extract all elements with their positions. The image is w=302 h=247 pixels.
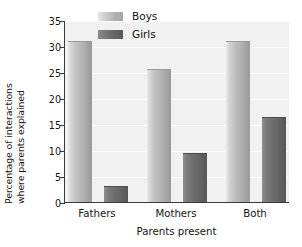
- gridline: [65, 99, 289, 100]
- gridline: [65, 125, 289, 126]
- legend-swatch-boys-icon: [98, 12, 123, 21]
- bar-fathers-girls: [104, 186, 128, 202]
- bar-chart-figure: Percentage of interactions where parents…: [0, 0, 302, 247]
- y-axis-tick-label: 35: [39, 16, 61, 27]
- x-axis-category-label: Both: [210, 208, 300, 219]
- bar-both-girls: [262, 117, 286, 202]
- legend-label-boys: Boys: [132, 11, 157, 22]
- y-axis-tick-label: 30: [39, 42, 61, 53]
- y-axis-tick-label: 20: [39, 94, 61, 105]
- y-axis-label-line-1: Percentage of interactions: [3, 4, 14, 204]
- legend-label-girls: Girls: [132, 29, 156, 40]
- y-axis-tick-label: 25: [39, 68, 61, 79]
- x-axis-category-label: Mothers: [131, 208, 221, 219]
- x-axis-label: Parents present: [64, 226, 289, 237]
- gridline: [65, 151, 289, 152]
- y-axis-tick-label: 15: [39, 120, 61, 131]
- bar-mothers-boys: [147, 69, 171, 202]
- y-axis-label-line-2: where parents explained: [15, 4, 26, 204]
- bar-both-boys: [226, 41, 250, 202]
- x-axis-category-label: Fathers: [52, 208, 142, 219]
- bar-mothers-girls: [183, 153, 207, 202]
- bar-fathers-boys: [68, 41, 92, 202]
- plot-area: [64, 21, 289, 203]
- chart-legend: Boys Girls: [98, 9, 203, 45]
- legend-item-girls: Girls: [98, 27, 203, 42]
- y-axis-tick-label: 5: [39, 172, 61, 183]
- y-axis-tick-label: 10: [39, 146, 61, 157]
- gridline: [65, 177, 289, 178]
- legend-swatch-girls-icon: [98, 30, 123, 39]
- y-axis-tick-label: 0: [39, 198, 61, 209]
- gridline: [65, 47, 289, 48]
- legend-item-boys: Boys: [98, 9, 203, 24]
- gridline: [65, 73, 289, 74]
